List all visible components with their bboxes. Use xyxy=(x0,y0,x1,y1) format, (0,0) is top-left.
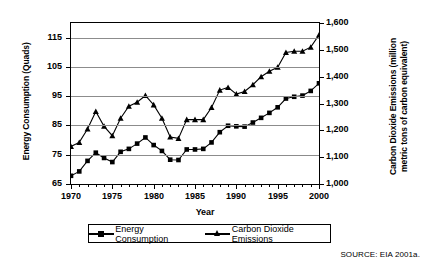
y-axis-left-title-text: Energy Consumption (Quads) xyxy=(21,42,31,160)
y-axis-right-tick-label: 1,400 xyxy=(326,71,360,81)
x-axis-minor-tick xyxy=(253,184,254,187)
y-axis-left-tick-label: 105 xyxy=(32,61,62,71)
y-axis-left-tick xyxy=(66,96,70,97)
x-axis-minor-tick xyxy=(228,184,229,187)
legend-label-carbon-dioxide-emissions: Carbon Dioxide Emissions xyxy=(232,224,330,244)
square-marker xyxy=(259,116,264,121)
square-marker xyxy=(176,158,181,163)
y-axis-left-tick-label: 75 xyxy=(32,149,62,159)
y-axis-left-tick-label: 115 xyxy=(32,32,62,42)
x-axis-tick-label: 1975 xyxy=(92,191,132,201)
x-axis-minor-tick xyxy=(104,184,105,187)
x-axis-minor-tick xyxy=(286,184,287,187)
chart-legend: Energy Consumption Carbon Dioxide Emissi… xyxy=(88,224,331,243)
square-marker xyxy=(168,157,173,162)
square-marker xyxy=(127,147,132,152)
x-axis-title: Year xyxy=(60,207,350,218)
x-axis-minor-tick xyxy=(96,184,97,187)
series-line xyxy=(71,83,319,176)
square-marker xyxy=(160,149,165,154)
legend-item-carbon-dioxide-emissions: Carbon Dioxide Emissions xyxy=(205,224,330,244)
square-marker xyxy=(193,147,198,152)
series-line xyxy=(71,35,319,146)
x-axis-major-tick xyxy=(71,184,72,189)
triangle-marker xyxy=(126,103,132,109)
square-marker xyxy=(275,105,280,110)
y-axis-left-tick-label: 65 xyxy=(32,178,62,188)
chart-figure: Energy Consumption (Quads) Carbon Dioxid… xyxy=(0,0,426,268)
y-axis-left-tick xyxy=(66,67,70,68)
y-axis-left-tick-label: 95 xyxy=(32,90,62,100)
x-axis-minor-tick xyxy=(311,184,312,187)
x-axis-tick-label: 1970 xyxy=(51,191,91,201)
y-axis-left-tick xyxy=(66,155,70,156)
triangle-marker xyxy=(258,74,264,80)
y-axis-left-tick xyxy=(66,125,70,126)
x-axis-minor-tick xyxy=(220,184,221,187)
square-marker xyxy=(85,159,90,164)
x-axis-tick-label: 1980 xyxy=(134,191,174,201)
series-canvas xyxy=(71,23,319,184)
square-marker xyxy=(102,156,107,161)
x-axis-tick-label: 1990 xyxy=(216,191,256,201)
square-marker xyxy=(201,147,206,152)
x-axis-major-tick xyxy=(319,184,320,189)
square-marker xyxy=(143,135,148,140)
x-axis-minor-tick xyxy=(137,184,138,187)
gridline xyxy=(71,155,319,156)
x-axis-major-tick xyxy=(112,184,113,189)
x-axis-major-tick xyxy=(195,184,196,189)
square-marker xyxy=(317,81,319,86)
triangle-marker xyxy=(159,115,165,121)
legend-label-energy-consumption: Energy Consumption xyxy=(115,224,193,244)
x-axis-tick-label: 1985 xyxy=(175,191,215,201)
x-axis-title-text: Year xyxy=(196,207,215,217)
triangle-marker xyxy=(93,109,99,115)
gridline xyxy=(71,38,319,39)
y-axis-left-title: Energy Consumption (Quads) xyxy=(21,31,32,171)
square-marker xyxy=(151,143,156,148)
y-axis-right-tick-label: 1,100 xyxy=(326,151,360,161)
square-marker xyxy=(184,147,189,152)
triangle-marker xyxy=(85,126,91,132)
y-axis-right-tick xyxy=(320,50,324,51)
y-axis-right-tick-label: 1,000 xyxy=(326,178,360,188)
square-marker xyxy=(308,89,313,94)
y-axis-right-tick xyxy=(320,184,324,185)
x-axis-minor-tick xyxy=(129,184,130,187)
x-axis-major-tick xyxy=(154,184,155,189)
x-axis-minor-tick xyxy=(79,184,80,187)
x-axis-minor-tick xyxy=(170,184,171,187)
triangle-marker xyxy=(266,68,272,74)
x-axis-minor-tick xyxy=(121,184,122,187)
y-axis-left-tick-label: 85 xyxy=(32,119,62,129)
triangle-marker xyxy=(316,32,319,38)
square-marker xyxy=(218,130,223,135)
x-axis-tick-label: 1995 xyxy=(258,191,298,201)
triangle-marker-icon xyxy=(205,229,228,238)
triangle-marker xyxy=(76,139,82,145)
x-axis-minor-tick xyxy=(88,184,89,187)
square-marker xyxy=(267,111,272,116)
gridline xyxy=(71,125,319,126)
y-axis-right-tick-label: 1,200 xyxy=(326,124,360,134)
x-axis-minor-tick xyxy=(245,184,246,187)
y-axis-right-tick xyxy=(320,130,324,131)
y-axis-right-tick xyxy=(320,104,324,105)
x-axis-minor-tick xyxy=(302,184,303,187)
square-marker xyxy=(118,150,123,155)
x-axis-minor-tick xyxy=(294,184,295,187)
square-marker-icon xyxy=(89,229,112,238)
square-marker xyxy=(110,160,115,165)
x-axis-minor-tick xyxy=(145,184,146,187)
square-marker xyxy=(77,169,82,174)
x-axis-major-tick xyxy=(278,184,279,189)
square-marker xyxy=(135,141,140,146)
source-note: SOURCE: EIA 2001a. xyxy=(340,250,420,259)
y-axis-right-tick xyxy=(320,77,324,78)
x-axis-minor-tick xyxy=(178,184,179,187)
x-axis-minor-tick xyxy=(203,184,204,187)
series-carbon-dioxide-emissions xyxy=(71,32,319,149)
triangle-marker xyxy=(71,143,74,149)
y-axis-right-tick xyxy=(320,157,324,158)
